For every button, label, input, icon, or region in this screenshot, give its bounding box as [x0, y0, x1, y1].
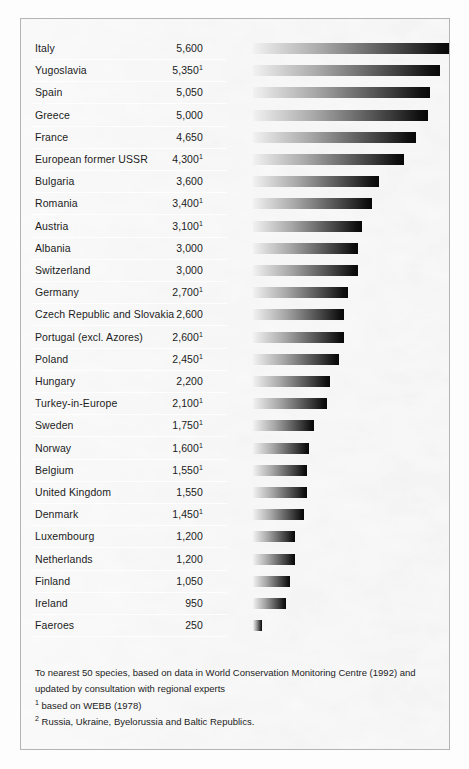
bar [253, 398, 327, 409]
value-label: 1,7501 [121, 419, 203, 431]
value-label: 2,4501 [121, 353, 203, 365]
value-label: 1,4501 [121, 508, 203, 520]
bar [253, 420, 314, 431]
bar [253, 65, 440, 76]
value-number: 5,050 [176, 86, 203, 98]
value-label: 3,000 [121, 242, 203, 254]
bar [253, 198, 372, 209]
country-label: Greece [35, 109, 70, 121]
bar [253, 443, 309, 454]
value-number: 3,400 [172, 197, 199, 209]
chart-panel: Italy5,600Yugoslavia5,3501Spain5,050Gree… [20, 18, 450, 750]
bar [253, 176, 379, 187]
value-number: 3,000 [176, 264, 203, 276]
value-number: 950 [185, 597, 203, 609]
bar [253, 132, 416, 143]
value-footnote-marker: 1 [199, 64, 203, 71]
value-footnote-marker: 1 [199, 219, 203, 226]
row-separator [31, 570, 227, 571]
value-footnote-marker: 1 [199, 419, 203, 426]
table-row: Ireland950 [21, 594, 449, 616]
value-label: 3,000 [121, 264, 203, 276]
value-label: 1,550 [121, 486, 203, 498]
footnote-1: 1 based on WEBB (1978) [35, 698, 439, 714]
row-separator [31, 126, 227, 127]
value-footnote-marker: 1 [199, 352, 203, 359]
country-label: France [35, 131, 68, 143]
bar [253, 265, 358, 276]
country-label: Germany [35, 286, 79, 298]
country-label: Romania [35, 197, 78, 209]
value-label: 5,050 [121, 86, 203, 98]
bar [253, 598, 286, 609]
value-number: 2,100 [172, 397, 199, 409]
row-separator [31, 148, 227, 149]
bar [253, 465, 307, 476]
country-label: Belgium [35, 464, 74, 476]
bar [253, 154, 404, 165]
value-label: 1,5501 [121, 464, 203, 476]
country-label: Austria [35, 220, 68, 232]
country-label: Albania [35, 242, 71, 254]
footnote-2-marker: 2 [35, 715, 39, 722]
row-separator [31, 592, 227, 593]
row-separator [31, 525, 227, 526]
value-label: 1,200 [121, 530, 203, 542]
value-number: 4,650 [176, 131, 203, 143]
row-separator [31, 436, 227, 437]
table-row: Germany2,7001 [21, 283, 449, 305]
value-number: 3,100 [172, 220, 199, 232]
bar [253, 87, 430, 98]
value-footnote-marker: 1 [199, 153, 203, 160]
country-label: Yugoslavia [35, 64, 87, 76]
country-label: Spain [35, 86, 62, 98]
country-label: Hungary [35, 375, 75, 387]
row-separator [31, 214, 227, 215]
row-separator [31, 614, 227, 615]
value-number: 3,600 [176, 175, 203, 187]
footnote-1-text: based on WEBB (1978) [42, 700, 142, 711]
value-number: 1,750 [172, 419, 199, 431]
value-label: 3,1001 [121, 220, 203, 232]
table-row: Portugal (excl. Azores)2,6001 [21, 328, 449, 350]
bar [253, 332, 344, 343]
table-row: Sweden1,7501 [21, 416, 449, 438]
bar [253, 376, 330, 387]
footnote-source-line-2: updated by consultation with regional ex… [35, 681, 439, 697]
value-number: 1,200 [176, 530, 203, 542]
value-footnote-marker: 1 [199, 197, 203, 204]
footnote-source-line-1: To nearest 50 species, based on data in … [35, 665, 439, 681]
bar [253, 620, 262, 631]
value-label: 5,000 [121, 109, 203, 121]
value-label: 2,600 [121, 308, 203, 320]
row-separator [31, 192, 227, 193]
country-label: United Kingdom [35, 486, 111, 498]
row-separator [31, 414, 227, 415]
value-label: 1,6001 [121, 442, 203, 454]
country-label: Norway [35, 442, 71, 454]
table-row: Bulgaria3,600 [21, 172, 449, 194]
footnote-2: 2 Russia, Ukraine, Byelorussia and Balti… [35, 714, 439, 730]
table-row: Greece5,000 [21, 106, 449, 128]
value-number: 4,300 [172, 153, 199, 165]
bar [253, 309, 344, 320]
table-row: Denmark1,4501 [21, 505, 449, 527]
row-separator [31, 81, 227, 82]
table-row: European former USSR4,3001 [21, 150, 449, 172]
row-separator [31, 281, 227, 282]
value-number: 5,350 [172, 64, 199, 76]
row-separator [31, 636, 227, 637]
value-footnote-marker: 1 [199, 463, 203, 470]
footnote-2-text: Russia, Ukraine, Byelorussia and Baltic … [42, 716, 255, 727]
footnote-1-marker: 1 [35, 699, 39, 706]
bar [253, 576, 290, 587]
value-label: 5,600 [121, 42, 203, 54]
value-label: 2,7001 [121, 286, 203, 298]
country-label: Finland [35, 575, 70, 587]
country-label: Switzerland [35, 264, 90, 276]
row-separator [31, 170, 227, 171]
row-separator [31, 59, 227, 60]
country-label: Poland [35, 353, 68, 365]
value-number: 1,200 [176, 553, 203, 565]
country-label: Turkey-in-Europe [35, 397, 117, 409]
